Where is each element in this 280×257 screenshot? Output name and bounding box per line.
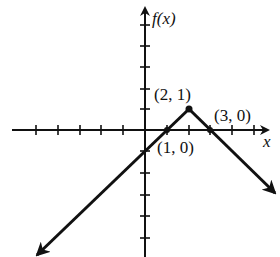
right-zero-label: (3, 0) — [214, 106, 251, 125]
x-axis-label: x — [262, 132, 271, 151]
vertex-point — [186, 106, 193, 113]
zero-point-1 — [164, 127, 170, 133]
y-axis-label: f(x) — [152, 9, 176, 28]
vertex-label: (2, 1) — [154, 85, 191, 104]
left-zero-label: (1, 0) — [157, 138, 194, 157]
zero-point-3 — [207, 127, 213, 133]
function-graph: f(x) x (2, 1) (3, 0) (1, 0) — [0, 0, 280, 257]
